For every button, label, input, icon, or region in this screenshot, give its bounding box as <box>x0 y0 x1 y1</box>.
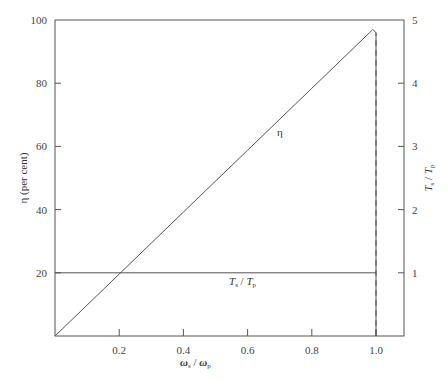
left-tick-label: 20 <box>36 267 48 279</box>
x-tick-label: 1.0 <box>369 344 383 356</box>
x-tick-label: 0.6 <box>241 344 255 356</box>
x-tick-label: 0.8 <box>305 344 319 356</box>
right-tick-label: 4 <box>412 77 418 89</box>
left-tick-label: 80 <box>36 77 48 89</box>
left-y-axis-label: η (per cent) <box>17 152 30 203</box>
left-tick-label: 60 <box>36 140 48 152</box>
x-axis-label: ωs / ωp <box>180 356 211 370</box>
x-axis-ticks: 0.20.40.60.81.0 <box>112 329 383 356</box>
x-tick-label: 0.2 <box>112 344 126 356</box>
left-axis-ticks: 20406080100 <box>31 14 62 279</box>
left-tick-label: 40 <box>36 204 48 216</box>
torque-curve-label: Ts / Tp <box>229 275 257 289</box>
efficiency-torque-chart: 20406080100 12345 0.20.40.60.81.0 η Ts /… <box>0 0 448 381</box>
right-tick-label: 2 <box>412 204 418 216</box>
right-tick-label: 5 <box>412 14 418 26</box>
right-tick-label: 1 <box>412 267 418 279</box>
series-line-0 <box>55 30 376 337</box>
left-tick-label: 100 <box>31 14 48 26</box>
x-tick-label: 0.4 <box>177 344 191 356</box>
plot-frame <box>55 20 404 336</box>
series-layer <box>55 30 376 337</box>
right-axis-ticks: 12345 <box>398 14 418 279</box>
right-tick-label: 3 <box>412 140 418 152</box>
right-y-axis-label: Ts / Tp <box>422 164 436 192</box>
eta-curve-label: η <box>277 126 283 138</box>
